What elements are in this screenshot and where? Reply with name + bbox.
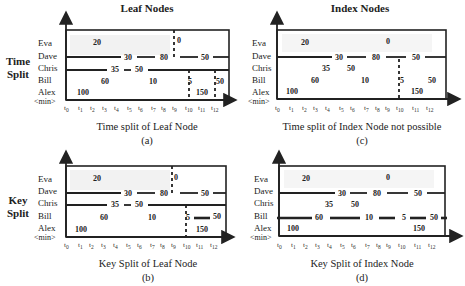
value-bill-10: 10 [148, 213, 156, 222]
svg-text:t6: t6 [350, 104, 355, 113]
svg-text:t7: t7 [151, 104, 156, 113]
svg-text:t2: t2 [303, 241, 308, 250]
value-eva-20: 20 [93, 174, 101, 183]
panel-a-time-split-leaf: Eva Dave Chris Bill Alex <min> 20 0 30 8… [34, 14, 234, 147]
svg-text:t5: t5 [127, 104, 132, 113]
value-bill-50: 50 [213, 212, 221, 221]
value-alex-150: 150 [413, 224, 425, 233]
svg-text:t2: t2 [89, 241, 94, 250]
value-alex-100: 100 [286, 87, 298, 96]
value-bill-5: 5 [188, 77, 192, 86]
svg-text:t4: t4 [325, 104, 330, 113]
caption-d: Key Split of Index Node [310, 258, 414, 269]
row-label-alex: Alex [252, 87, 270, 97]
value-dave-30: 30 [124, 53, 132, 62]
svg-text:t9: t9 [171, 241, 176, 250]
panel-d-key-split-index: Eva Dave Chris Bill Alex <min> 20 0 30 8… [250, 153, 460, 284]
value-alex-150: 150 [196, 225, 208, 234]
svg-text:t3: t3 [102, 104, 107, 113]
value-dave-50: 50 [201, 53, 209, 62]
row-label-min: <min> [34, 233, 56, 242]
value-eva-0: 0 [386, 37, 390, 46]
value-alex-100: 100 [287, 224, 299, 233]
svg-text:t12: t12 [211, 104, 219, 113]
column-title-index-nodes: Index Nodes [331, 2, 390, 14]
value-chris-35: 35 [325, 200, 333, 209]
value-eva-20: 20 [93, 38, 101, 47]
svg-text:t10: t10 [398, 241, 406, 250]
value-dave-80: 80 [160, 189, 168, 198]
svg-text:t8: t8 [160, 241, 165, 250]
time-axis-ticks: t0 t1 t2 t3 t4 t5 t6 t7 t8 t9 t10 t11 t1… [275, 104, 434, 113]
svg-text:t0: t0 [277, 241, 282, 250]
value-chris-50: 50 [351, 200, 359, 209]
value-bill-10: 10 [365, 213, 373, 222]
value-alex-150: 150 [196, 88, 208, 97]
svg-text:t10: t10 [185, 104, 193, 113]
svg-text:t7: t7 [364, 104, 369, 113]
value-bill-60: 60 [311, 76, 319, 85]
row-label-dave: Dave [252, 51, 271, 61]
svg-text:t9: t9 [386, 241, 391, 250]
svg-text:t0: t0 [64, 241, 69, 250]
svg-text:t9: t9 [172, 104, 177, 113]
svg-text:t11: t11 [412, 104, 419, 113]
row-label-bill: Bill [38, 75, 52, 85]
row-title-key: Key [9, 194, 28, 206]
svg-text:t8: t8 [161, 104, 166, 113]
caption-letter-a: (a) [141, 135, 153, 147]
svg-text:t5: t5 [340, 241, 345, 250]
time-axis-ticks: t0 t1 t2 t3 t4 t5 t6 t7 t8 t9 t10 t11 t1… [64, 104, 219, 113]
row-label-bill: Bill [254, 211, 268, 221]
svg-text:t8: t8 [376, 241, 381, 250]
svg-text:t6: t6 [137, 241, 142, 250]
value-chris-35: 35 [111, 65, 119, 74]
value-alex-100: 100 [75, 225, 87, 234]
time-axis-ticks: t0 t1 t2 t3 t4 t5 t6 t7 t8 t9 t10 t11 t1… [277, 241, 436, 250]
svg-text:t0: t0 [275, 104, 280, 113]
value-bill-60: 60 [100, 213, 108, 222]
svg-text:t7: t7 [150, 241, 155, 250]
svg-text:t11: t11 [196, 241, 203, 250]
svg-text:t7: t7 [365, 241, 370, 250]
value-chris-50: 50 [135, 65, 143, 74]
row-label-eva: Eva [252, 38, 266, 48]
column-title-leaf-nodes: Leaf Nodes [121, 2, 175, 14]
row-label-chris: Chris [252, 63, 272, 73]
row-label-dave: Dave [254, 186, 273, 196]
value-dave-80: 80 [160, 53, 168, 62]
row-label-min: <min> [250, 233, 272, 242]
value-dave-50: 50 [412, 53, 420, 62]
value-alex-100: 100 [77, 88, 89, 97]
split-diagram: Leaf Nodes Index Nodes Time Split Key Sp… [0, 0, 465, 286]
value-dave-80: 80 [372, 53, 380, 62]
value-bill-10: 10 [361, 76, 369, 85]
svg-text:t8: t8 [375, 104, 380, 113]
svg-text:t12: t12 [428, 241, 436, 250]
row-title-time: Time [6, 55, 30, 67]
value-dave-50: 50 [414, 189, 422, 198]
row-label-alex: Alex [254, 223, 272, 233]
svg-text:t4: t4 [114, 104, 119, 113]
svg-text:t2: t2 [302, 104, 307, 113]
value-dave-50: 50 [201, 189, 209, 198]
caption-letter-b: (b) [142, 272, 155, 284]
row-title-split: Split [7, 68, 29, 80]
caption-letter-c: (c) [356, 135, 368, 147]
value-eva-0: 0 [174, 173, 178, 182]
svg-text:t11: t11 [414, 241, 421, 250]
value-eva-0: 0 [177, 36, 181, 45]
row-label-bill: Bill [38, 211, 52, 221]
value-bill-60: 60 [101, 77, 109, 86]
panel-b-key-split-leaf: Eva Dave Chris Bill Alex <min> 20 0 30 8… [34, 153, 232, 284]
value-alex-150: 150 [411, 87, 423, 96]
panel-c-time-split-index: Eva Dave Chris Bill Alex <min> 20 0 30 8… [248, 14, 458, 147]
caption-letter-d: (d) [356, 272, 369, 284]
svg-text:t6: t6 [138, 104, 143, 113]
value-bill-60: 60 [315, 213, 323, 222]
value-bill-5: 5 [402, 213, 406, 222]
value-dave-30: 30 [124, 189, 132, 198]
row-label-dave: Dave [38, 51, 57, 61]
value-chris-50: 50 [347, 64, 355, 73]
time-axis-ticks: t0 t1 t2 t3 t4 t5 t6 t7 t8 t9 t10 t11 t1… [64, 241, 218, 250]
